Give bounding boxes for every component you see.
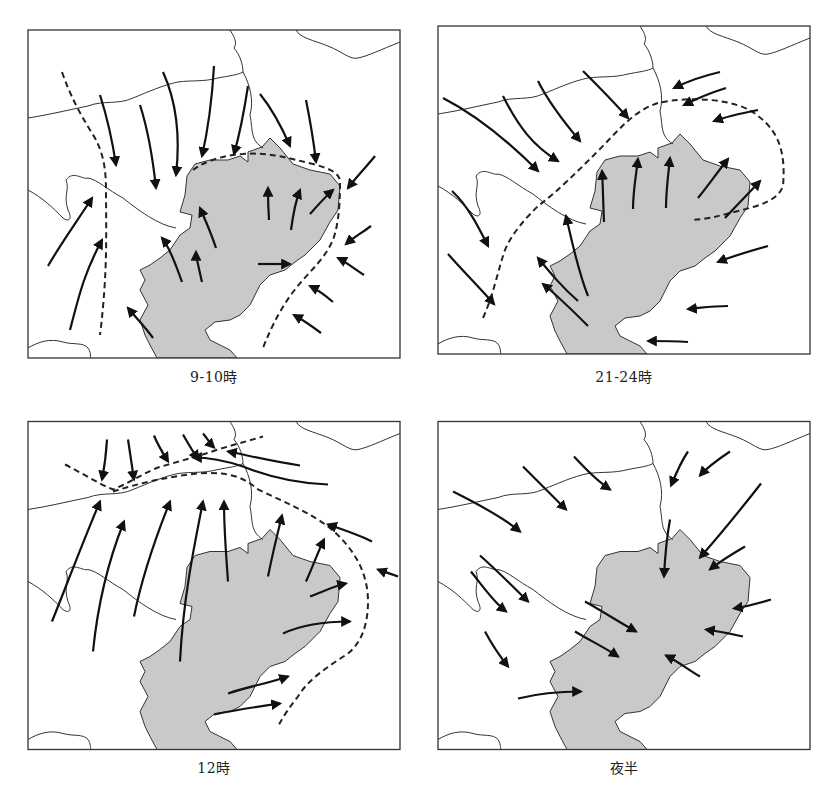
river-line (243, 464, 263, 540)
river-line (28, 175, 176, 228)
wind-arrow-icon (48, 198, 92, 266)
urban-region (140, 530, 340, 750)
wind-arrow-icon (700, 452, 730, 476)
river-line (438, 732, 501, 750)
convergence-line (62, 72, 106, 335)
river-line (653, 68, 673, 144)
panel-12 (28, 420, 400, 748)
map-21-24 (438, 26, 810, 354)
wind-arrow-icon (674, 72, 720, 88)
wind-arrow-icon (163, 72, 178, 175)
wind-arrow-icon (128, 440, 134, 480)
wind-arrow-icon (294, 315, 321, 333)
wind-arrow-icon (140, 105, 156, 188)
river-line (706, 422, 810, 450)
wind-arrow-icon (268, 188, 269, 220)
wind-arrow-icon (448, 254, 494, 304)
panel-9-10 (28, 30, 400, 358)
wind-arrow-icon (378, 570, 398, 577)
panel-midnight (438, 420, 810, 748)
river-line (640, 26, 653, 68)
wind-arrow-icon (523, 467, 566, 510)
wind-arrow-icon (718, 246, 768, 262)
river-line (243, 72, 263, 148)
river-line (28, 732, 91, 750)
wind-arrow-icon (443, 98, 538, 171)
wind-arrow-icon (102, 440, 107, 480)
wind-arrow-icon (234, 86, 248, 154)
river-line (296, 422, 400, 450)
wind-arrow-icon (688, 306, 728, 309)
panel-21-24 (438, 26, 810, 354)
wind-arrow-icon (684, 88, 726, 105)
wind-arrow-icon (714, 110, 758, 121)
river-line (230, 30, 243, 72)
wind-arrow-icon (260, 94, 290, 146)
wind-arrow-icon (671, 452, 688, 486)
wind-arrow-icon (70, 240, 102, 330)
caption-midnight: 夜半 (438, 757, 810, 777)
wind-arrow-icon (52, 502, 100, 622)
urban-region (550, 134, 750, 354)
river-line (706, 26, 810, 54)
wind-arrow-icon (348, 156, 375, 188)
map-midnight (438, 420, 810, 748)
wind-arrow-icon (203, 434, 214, 448)
river-line (438, 464, 653, 510)
wind-arrow-icon (228, 452, 300, 466)
wind-arrow-icon (346, 226, 371, 244)
wind-arrow-icon (485, 632, 508, 667)
river-line (653, 464, 673, 540)
wind-arrow-icon (183, 435, 198, 460)
wind-arrow-icon (93, 522, 124, 652)
wind-arrow-icon (453, 492, 520, 532)
caption-21-24: 21-24時 (438, 366, 810, 386)
river-line (296, 30, 400, 58)
river-line (438, 68, 653, 114)
river-line (28, 340, 91, 358)
caption-9-10: 9-10時 (28, 366, 400, 386)
wind-arrow-icon (134, 502, 170, 617)
wind-arrow-icon (538, 81, 580, 141)
river-line (640, 422, 653, 464)
river-line (438, 336, 501, 354)
map-9-10 (28, 30, 400, 358)
caption-12: 12時 (28, 757, 400, 777)
wind-arrow-icon (306, 100, 316, 162)
wind-arrow-icon (310, 286, 333, 302)
river-line (438, 567, 586, 620)
wind-arrow-icon (648, 341, 688, 342)
river-line (438, 171, 586, 224)
wind-arrow-icon (583, 71, 628, 118)
map-12 (28, 420, 400, 748)
wind-arrow-icon (700, 484, 761, 558)
wind-arrow-icon (328, 525, 372, 542)
wind-arrow-icon (480, 556, 528, 602)
river-line (28, 464, 243, 510)
wind-arrow-icon (154, 436, 168, 462)
wind-arrow-icon (338, 258, 364, 275)
wind-arrow-icon (503, 96, 558, 161)
